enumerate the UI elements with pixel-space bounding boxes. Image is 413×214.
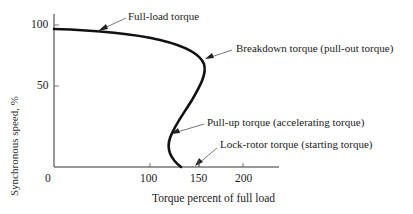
lock-rotor-arrow	[195, 148, 217, 167]
lock-rotor-label: Lock-rotor torque (starting torque)	[220, 139, 372, 150]
x-tick-label-150: 150	[190, 173, 207, 185]
x-tick-label-100: 100	[140, 173, 157, 185]
x-tick-label-0: 0	[45, 173, 51, 185]
speed-torque-curve	[54, 29, 205, 167]
breakdown-arrow	[205, 50, 232, 59]
y-tick-label-100: 100	[31, 19, 48, 31]
y-axis-title: Synchronous speed, %	[8, 96, 20, 196]
full-load-label: Full-load torque	[128, 11, 199, 22]
breakdown-label: Breakdown torque (pull-out torque)	[236, 43, 393, 54]
full-load-arrow	[98, 18, 126, 31]
pull-up-label: Pull-up torque (accelerating torque)	[207, 117, 364, 128]
y-tick-label-50: 50	[37, 80, 49, 92]
x-axis-title: Torque percent of full load	[152, 192, 275, 204]
x-tick-label-200: 200	[235, 173, 252, 185]
